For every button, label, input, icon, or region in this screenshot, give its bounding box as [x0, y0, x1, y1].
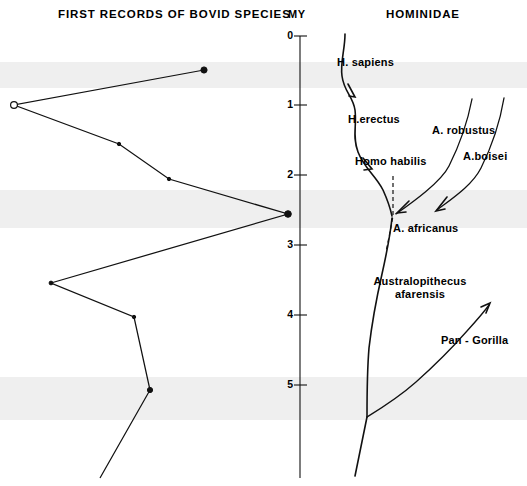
- taxon-label-pan-gorilla: Pan - Gorilla: [441, 334, 508, 346]
- taxon-label-homo-habilis: Homo habilis: [355, 155, 426, 167]
- taxon-label-a-boisei: A.boisei: [463, 150, 507, 162]
- lineage-australopithecus-afarensis: [367, 218, 392, 417]
- bovid-first-records-curve: [11, 67, 292, 478]
- taxon-label-h-sapiens: H. sapiens: [337, 56, 394, 68]
- figure-root: FIRST RECORDS OF BOVID SPECIES HOMINIDAE…: [0, 0, 527, 486]
- lineage-pan-gorilla: [367, 305, 489, 417]
- taxon-label-a-robustus: A. robustus: [432, 124, 495, 136]
- axis-tick-label-3: 3: [273, 238, 293, 250]
- hominid-phylogeny: [342, 34, 504, 476]
- axis-tick-label-2: 2: [273, 168, 293, 180]
- taxon-label-h-erectus: H.erectus: [348, 113, 400, 125]
- time-axis: [294, 36, 307, 478]
- axis-tick-label-0: 0: [273, 29, 293, 41]
- data-point-marker: [49, 281, 53, 285]
- figure-svg: [0, 0, 527, 486]
- taxon-label-australopithecus-afarensis: Australopithecus afarensis: [364, 275, 476, 300]
- lineage-common-stem: [355, 417, 367, 476]
- data-point-marker: [117, 142, 120, 145]
- data-point-marker: [147, 387, 152, 392]
- data-point-marker: [132, 315, 135, 318]
- data-point-marker: [201, 67, 207, 73]
- data-point-marker: [167, 177, 170, 180]
- lineage-robustus-arrow: [397, 201, 409, 213]
- lineage-pan-gorilla-arrow: [481, 303, 490, 313]
- taxon-label-a-africanus: A. africanus: [393, 222, 458, 234]
- axis-tick-label-1: 1: [273, 98, 293, 110]
- data-point-marker: [285, 211, 292, 218]
- data-point-marker: [11, 102, 18, 109]
- axis-tick-label-5: 5: [273, 378, 293, 390]
- axis-tick-label-4: 4: [273, 308, 293, 320]
